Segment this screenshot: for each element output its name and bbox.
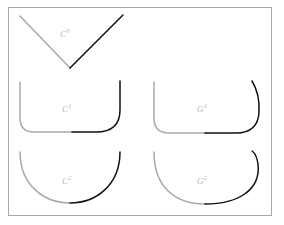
continuity-comparison-figure	[0, 0, 284, 225]
figure-container: C0 C1 G1 C2 G2	[0, 0, 284, 225]
panel-label-g2-base: G	[197, 176, 204, 186]
panel-c0	[20, 15, 123, 68]
panel-label-c0: C0	[60, 29, 70, 39]
g1-black-segment	[205, 81, 259, 133]
panel-label-c0-sup: 0	[66, 27, 69, 34]
g2-black-segment	[205, 151, 258, 204]
figure-frame	[9, 8, 272, 216]
panel-label-c2-sup: 2	[68, 174, 71, 181]
panel-label-c1: C1	[62, 104, 72, 114]
panel-label-g1: G1	[197, 104, 207, 114]
panel-label-g1-sup: 1	[204, 102, 207, 109]
panel-label-g2-sup: 2	[204, 174, 207, 181]
c0-gray-segment	[20, 16, 70, 68]
c2-black-segment	[70, 152, 120, 203]
c1-black-segment	[72, 81, 120, 132]
c0-black-segment	[70, 15, 123, 68]
panel-label-g1-base: G	[197, 104, 204, 114]
panel-label-c2: C2	[62, 176, 72, 186]
panel-label-g2: G2	[197, 176, 207, 186]
panel-label-c1-sup: 1	[68, 102, 71, 109]
